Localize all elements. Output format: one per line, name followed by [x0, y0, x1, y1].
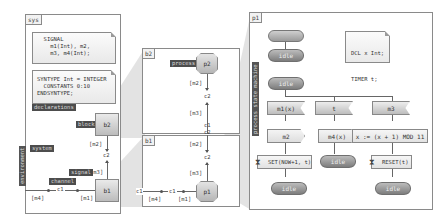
b1-channel-line-bottom	[207, 163, 208, 181]
input-t[interactable]: t	[315, 101, 353, 115]
state-idle-1[interactable]: idle	[268, 49, 304, 62]
b1-channel-c2: c2	[204, 154, 211, 161]
block-b1[interactable]: b1	[95, 179, 119, 202]
state-idle-after-m4[interactable]: idle	[320, 155, 356, 168]
b1-channel-c1: c1	[168, 188, 177, 195]
state-idle-2[interactable]: idle	[268, 77, 304, 90]
process-p2[interactable]: p2	[196, 53, 218, 74]
input-m3[interactable]: m3	[372, 101, 410, 115]
timer-reset[interactable]: ⧗ RESET(t)	[371, 155, 412, 169]
process-state-machine-label: process state machine	[252, 62, 259, 136]
b2-signal-m3: [m3]	[189, 110, 202, 117]
hourglass-icon: ⧗	[255, 158, 261, 167]
block-label: block	[76, 121, 97, 128]
b1-c1-arrow-right	[182, 190, 185, 193]
task-increment-x[interactable]: x := (x + 1) MOD 11	[352, 129, 428, 143]
channel-c1-arrow-left	[47, 189, 50, 192]
channel-c1-arrow-right	[76, 189, 79, 192]
channel-c1-name: c1	[56, 186, 65, 193]
flow-line	[392, 143, 393, 154]
signal-list-m2: [m2]	[89, 141, 102, 148]
hourglass-icon: ⧗	[369, 158, 375, 167]
frame-tag: b1	[143, 136, 155, 146]
flow-line	[334, 143, 335, 154]
signal-list-m4: [m4]	[31, 195, 44, 202]
system-label: system	[30, 145, 54, 152]
channel-c2-line-bottom	[107, 161, 108, 179]
flow-line	[285, 143, 286, 154]
syntype-declaration-note[interactable]: SYNTYPE Int = INTEGER CONSTANTS 0:10 END…	[32, 70, 116, 104]
flow-line	[285, 169, 286, 177]
b1-signal-m3: [m3]	[189, 170, 202, 177]
timer-reset-text: RESET(t)	[382, 159, 409, 165]
start-symbol[interactable]	[268, 30, 304, 42]
flow-line	[392, 96, 393, 101]
state-idle-after-reset[interactable]: idle	[375, 182, 411, 195]
frame-tag: p1	[250, 13, 262, 23]
timer-set-text: SET(NOW+1, t)	[268, 159, 311, 165]
b1-signal-m1: [m1]	[178, 196, 191, 203]
b1-gate-c1: c1	[136, 188, 143, 195]
b2-signal-m2: [m2]	[189, 80, 202, 87]
process-label: process	[170, 60, 197, 67]
b1-channel-line-top	[207, 135, 208, 152]
flow-line	[392, 115, 393, 121]
flow-line	[285, 115, 286, 121]
b2-channel-line-top	[207, 74, 208, 90]
state-idle-after-set[interactable]: idle	[271, 182, 307, 195]
process-p1[interactable]: p1	[196, 181, 218, 202]
flow-line	[285, 42, 286, 49]
frame-tag: sys	[26, 15, 42, 25]
b1-signal-m4: [m4]	[148, 196, 161, 203]
timer-set[interactable]: ⧗ SET(NOW+1, t)	[257, 155, 312, 169]
output-m4-x[interactable]: m4(x)	[318, 129, 356, 143]
channel-label: channel	[49, 178, 76, 185]
flow-line	[334, 96, 335, 101]
frame-tag: b2	[143, 49, 155, 59]
dcl-line: DCL x Int;	[351, 50, 384, 57]
output-m2[interactable]: m2	[267, 129, 305, 143]
b1-signal-m2: [m2]	[189, 141, 202, 148]
b2-gate-c1: c1	[204, 122, 211, 129]
branch-line	[285, 96, 392, 97]
signal-list-m3: [m3]	[90, 169, 103, 176]
channel-c2-name: c2	[103, 152, 110, 159]
flow-line	[334, 115, 335, 121]
declarations-label: declarations	[32, 104, 76, 111]
input-m1-x[interactable]: m1(x)	[267, 101, 305, 115]
flow-line	[392, 169, 393, 177]
b2-channel-c2: c2	[204, 93, 211, 100]
block-b2[interactable]: b2	[95, 113, 119, 136]
timer-line: TIMER t;	[351, 76, 384, 83]
b1-c1-arrow-left	[160, 190, 163, 193]
environment-label: environment	[19, 146, 26, 186]
signal-list-m1: [m1]	[80, 195, 93, 202]
channel-c2-line-top	[107, 136, 108, 151]
signal-declaration-note[interactable]: SIGNAL m1(Int), m2, m3, m4(Int);	[32, 32, 116, 64]
dcl-declaration-note[interactable]: DCL x Int; TIMER t;	[345, 31, 390, 63]
